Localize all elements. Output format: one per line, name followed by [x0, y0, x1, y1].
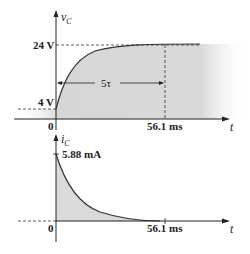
x-axis-arrow-icon [222, 219, 230, 224]
voltage-plot: vC 24 V 4 V 0 56.1 ms t 5τ [14, 10, 250, 134]
origin-label: 0 [48, 222, 54, 234]
voltage-area-fill [56, 44, 250, 119]
duration-label: 5τ [101, 77, 112, 89]
waveform-diagram: vC 24 V 4 V 0 56.1 ms t 5τ iC 5.88 mA 0 … [0, 0, 250, 254]
voltage-x-axis-label: t [230, 120, 234, 134]
y-axis-arrow-icon [54, 10, 59, 17]
y-axis-arrow-icon [54, 134, 59, 141]
current-y-axis-label: iC [61, 132, 70, 148]
settling-time-label: 56.1 ms [147, 120, 183, 132]
settling-time-label: 56.1 ms [147, 222, 183, 234]
origin-label: 0 [48, 120, 54, 132]
final-value-label: 24 V [33, 39, 55, 51]
current-plot: iC 5.88 mA 0 56.1 ms t [18, 132, 234, 242]
peak-value-label: 5.88 mA [62, 148, 101, 160]
initial-level-shading [14, 109, 56, 119]
arrowhead-left-icon [57, 81, 62, 85]
initial-value-label: 4 V [38, 96, 54, 108]
current-x-axis-label: t [230, 222, 234, 236]
voltage-y-axis-label: vC [61, 10, 72, 26]
